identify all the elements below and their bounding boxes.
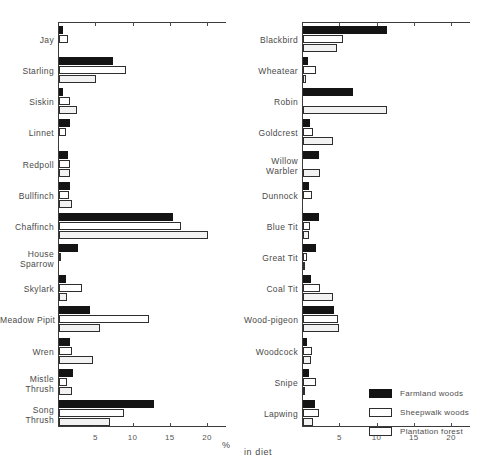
bar [303,409,319,417]
right-plot-area: 5101520 [302,22,466,427]
bar [303,137,333,145]
bar [303,88,353,96]
bar [303,400,315,408]
category-label: MistleThrush [0,374,54,394]
bar-group [59,88,223,115]
bar [303,191,312,199]
bar [59,347,72,355]
category-label: WillowWarbler [244,156,298,176]
bar [59,231,208,239]
bar [303,347,312,355]
x-tick-label-20: 20 [202,433,212,442]
legend-label-plantation-forest: Plantation forest [400,427,463,436]
bar [303,35,343,43]
category-label: Bullfinch [0,191,54,201]
bar [303,262,305,270]
bar-group [303,57,467,84]
category-label: Goldcrest [244,128,298,138]
bar [303,231,309,239]
bar [59,324,100,332]
bar [303,75,306,83]
bar [59,378,67,386]
bar [303,182,309,190]
bar-group [59,151,223,178]
bar [303,66,316,74]
bar-group [303,119,467,146]
bar [303,106,387,114]
bar [303,44,337,52]
bar [303,275,311,283]
bar [303,128,313,136]
left-plot-area: 5101520 [58,22,222,427]
bar-group [59,182,223,209]
bar [59,200,72,208]
bar-group [303,275,467,302]
bar [59,418,110,426]
x-tick-label-10: 10 [128,433,138,442]
bar-group [59,306,223,333]
category-label: Robin [244,97,298,107]
bar [59,338,70,346]
bar [59,151,68,159]
bar [59,213,173,221]
chart-figure: 5101520 JayStarlingSiskinLinnetRedpollBu… [0,0,488,467]
bar-group [303,244,467,271]
bar-group [59,213,223,240]
bar [303,169,320,177]
category-label: SongThrush [0,405,54,425]
bar [59,191,69,199]
bar [303,338,307,346]
x-tick-label-15: 15 [165,433,175,442]
bar-group [59,119,223,146]
bar [59,119,70,127]
bar-group [303,26,467,53]
category-label: Wood-pigeon [244,315,298,325]
bar-group [303,338,467,365]
bar [59,128,66,136]
bar [59,97,70,105]
category-label: Wren [0,347,54,357]
bar [59,169,70,177]
category-label: Blackbird [244,35,298,45]
bar [303,284,320,292]
category-label: Meadow Pipit [0,315,54,325]
bar [303,356,311,364]
legend-item-farmland-woods: Farmland woods [369,385,484,401]
legend-item-sheepwalk-woods: Sheepwalk woods [369,404,484,420]
bar [59,356,93,364]
category-label: Starling [0,66,54,76]
category-label: Coal Tit [244,284,298,294]
bar-group [303,306,467,333]
legend-swatch-sheepwalk-woods [369,408,392,417]
category-label: Wheatear [244,66,298,76]
bar [303,369,309,377]
legend-swatch-plantation-forest [369,427,392,436]
left-axis-top [58,22,226,23]
bar [303,387,305,395]
bar-group [303,182,467,209]
bar [59,315,149,323]
bar-group [59,57,223,84]
category-label: Snipe [244,378,298,388]
bar-group [59,369,223,396]
bar-group [303,213,467,240]
x-axis-title: in diet [244,447,272,457]
bar [303,151,319,159]
category-label: Blue Tit [244,222,298,232]
legend-label-farmland-woods: Farmland woods [400,389,463,398]
bar [59,35,68,43]
bar-group [59,400,223,427]
bar [59,253,61,261]
bar [303,418,313,426]
bar-group [59,338,223,365]
legend-swatch-farmland-woods [369,389,392,398]
bar [59,57,113,65]
bar-group [303,88,467,115]
category-label: Chaffinch [0,222,54,232]
bar [59,106,77,114]
bar [59,66,126,74]
bar [303,306,334,314]
legend: Farmland woods Sheepwalk woods Plantatio… [369,385,484,442]
bar-group [59,26,223,53]
category-label: Woodcock [244,347,298,357]
